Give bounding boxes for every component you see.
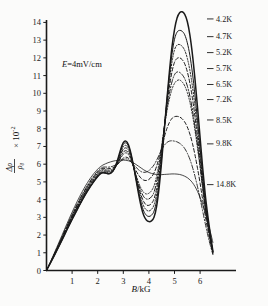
y-tick-label: 6 — [37, 159, 41, 169]
y-tick-label: 1 — [37, 248, 41, 258]
x-tick-label: 1 — [70, 276, 74, 286]
y-tick-label: 7 — [37, 141, 41, 151]
x-tick-label: 3 — [121, 276, 125, 286]
series-label-14-8K: 14.8K — [216, 180, 236, 189]
series-label-7-2K: 7.2K — [216, 95, 232, 104]
y-tick-label: 3 — [37, 212, 41, 222]
y-axis-title-denominator: ρ₀ — [15, 162, 24, 170]
y-tick-label: 11 — [33, 71, 41, 81]
y-tick-label: 12 — [33, 53, 42, 63]
x-tick-label: 6 — [198, 276, 202, 286]
y-axis-title-exponent: -2 — [9, 127, 16, 132]
x-tick-label: 2 — [96, 276, 100, 286]
y-axis-title-factor: × 10 — [11, 131, 21, 148]
y-axis-title-numerator: Δρ — [5, 163, 14, 173]
series-label-4-2K: 4.2K — [216, 15, 232, 24]
x-tick-label: 5 — [172, 276, 176, 286]
y-tick-label: 2 — [37, 230, 41, 240]
series-label-5-7K: 5.7K — [216, 64, 232, 73]
series-label-4-7K: 4.7K — [216, 32, 232, 41]
series-label-6-5K: 6.5K — [216, 80, 232, 89]
series-label-9-8K: 9.8K — [216, 139, 232, 148]
series-label-8-5K: 8.5K — [216, 116, 232, 125]
field-condition-annotation: E=4mV/cm — [61, 59, 102, 69]
y-tick-label: 14 — [33, 17, 42, 27]
chart-background — [0, 0, 268, 306]
y-tick-label: 0 — [37, 266, 41, 276]
x-axis-title-units: /kG — [137, 284, 151, 294]
y-tick-label: 8 — [37, 124, 41, 134]
series-label-5-2K: 5.2K — [216, 48, 232, 57]
x-axis-title: B/kG — [132, 284, 152, 294]
chart-figure: 01234567891011121314 123456 4.2K4.7K5.2K… — [0, 0, 268, 306]
magnetoresistance-line-chart: 01234567891011121314 123456 4.2K4.7K5.2K… — [0, 0, 268, 306]
y-tick-label: 10 — [33, 88, 42, 98]
annotation-value: =4mV/cm — [67, 59, 102, 69]
y-tick-label: 9 — [37, 106, 41, 116]
y-tick-label: 13 — [33, 35, 42, 45]
y-tick-label: 5 — [37, 177, 41, 187]
